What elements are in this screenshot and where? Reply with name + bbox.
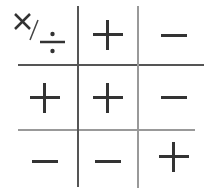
plus-icon [93,20,123,50]
cell-minus-plus [79,131,137,191]
multiply-divide-header [10,8,70,62]
col-header-plus [79,6,137,64]
minus-icon [161,34,187,37]
plus-icon [93,83,123,113]
plus-icon [159,142,189,172]
row-header-plus [12,66,77,129]
col-header-minus [139,6,209,64]
minus-icon [32,160,58,163]
cell-minus-minus [139,127,209,187]
cell-plus-minus [139,66,209,129]
minus-icon [161,96,187,99]
row-header-minus [12,131,77,191]
minus-icon [95,160,121,163]
cell-plus-plus [79,66,137,129]
plus-icon [30,83,60,113]
multiply-divide-icon [10,8,70,62]
